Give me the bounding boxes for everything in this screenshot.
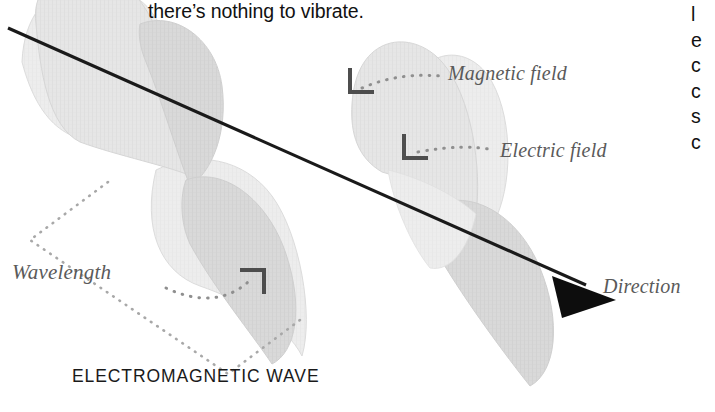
figure-caption: ELECTROMAGNETIC WAVE bbox=[72, 366, 319, 387]
figure-canvas: there’s nothing to vibrate. l e c c s c … bbox=[0, 0, 715, 412]
direction-label: Direction bbox=[603, 275, 681, 298]
magnetic-field-label: Magnetic field bbox=[448, 62, 567, 85]
right-text-line: s bbox=[691, 104, 715, 130]
right-text-line: c bbox=[691, 130, 715, 156]
wavelength-label: Wavelength bbox=[12, 260, 111, 285]
right-text-line: l bbox=[691, 2, 715, 28]
right-text-line: e bbox=[691, 28, 715, 54]
electromagnetic-wave-diagram bbox=[0, 0, 715, 412]
magnetic-field-wave bbox=[35, 0, 553, 386]
electric-field-label: Electric field bbox=[500, 139, 607, 162]
right-text-line: c bbox=[691, 53, 715, 79]
body-text-top: there’s nothing to vibrate. bbox=[148, 0, 364, 24]
right-text-column: l e c c s c bbox=[691, 2, 715, 156]
right-text-line: c bbox=[691, 79, 715, 105]
